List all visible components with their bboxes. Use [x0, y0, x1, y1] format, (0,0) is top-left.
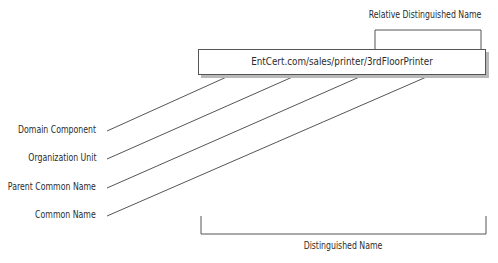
dn-bracket: [201, 216, 486, 234]
leader-parent-common-name: [107, 75, 364, 188]
component-label-parent-cn: Parent Common Name: [8, 181, 96, 193]
component-label-ou: Organization Unit: [28, 152, 96, 164]
rdn-label: Relative Distinguished Name: [351, 9, 498, 21]
leader-domain-component: [107, 75, 231, 131]
rdn-bracket: [375, 30, 481, 49]
leader-common-name: [107, 75, 431, 216]
dn-string: EntCert.com/sales/printer/3rdFloorPrinte…: [228, 55, 457, 69]
dn-label: Distinguished Name: [269, 240, 417, 252]
component-label-cn: Common Name: [35, 209, 96, 221]
dn-string-box: EntCert.com/sales/printer/3rdFloorPrinte…: [198, 49, 486, 75]
component-label-domain: Domain Component: [18, 124, 96, 136]
